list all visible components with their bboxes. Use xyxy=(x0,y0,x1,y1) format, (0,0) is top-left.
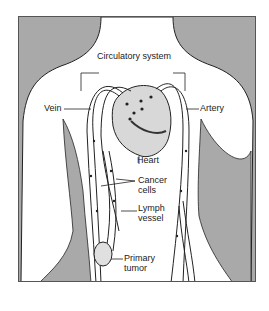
label-lymph-vessel-2: vessel xyxy=(138,213,164,223)
label-cancer-cells-2: cells xyxy=(138,185,156,195)
label-heart: Heart xyxy=(137,155,159,165)
primary-tumor xyxy=(94,242,112,266)
label-circulatory-system: Circulatory system xyxy=(97,51,171,61)
label-lymph-vessel-1: Lymph xyxy=(138,203,165,213)
label-vein: Vein xyxy=(44,103,62,113)
label-cancer-cells-1: Cancer xyxy=(138,175,167,185)
label-artery: Artery xyxy=(200,103,224,113)
label-primary-tumor-2: tumor xyxy=(124,263,147,273)
label-primary-tumor-1: Primary xyxy=(124,253,155,263)
